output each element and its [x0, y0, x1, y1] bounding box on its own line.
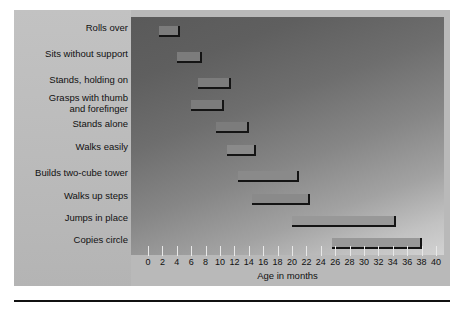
- milestone-label: Rolls over: [0, 23, 128, 34]
- milestone-bar: [216, 122, 248, 133]
- bar-track: [131, 76, 444, 98]
- milestone-bar: [252, 194, 310, 205]
- milestone-bar: [292, 216, 396, 227]
- table-row: Walks easily: [14, 143, 450, 165]
- bar-track: [131, 24, 444, 46]
- bar-track: [131, 143, 444, 165]
- milestone-bar: [198, 78, 230, 89]
- milestone-bar: [238, 171, 299, 182]
- axis-tick: [220, 246, 221, 256]
- table-row: Stands alone: [14, 120, 450, 142]
- milestone-bar: [227, 145, 256, 156]
- bar-track: [131, 214, 444, 236]
- x-axis-title: Age in months: [131, 270, 444, 281]
- axis-tick: [306, 246, 307, 256]
- axis-tick: [162, 246, 163, 256]
- milestone-label: Walks easily: [0, 142, 128, 153]
- table-row: Grasps with thumb and forefinger: [14, 98, 450, 120]
- milestone-bar: [177, 52, 202, 63]
- axis-tick: [422, 246, 423, 256]
- table-row: Rolls over: [14, 24, 450, 46]
- bottom-divider-rule: [14, 300, 450, 302]
- milestone-label: Sits without support: [0, 49, 128, 60]
- axis-tick: [350, 246, 351, 256]
- axis-tick: [292, 246, 293, 256]
- milestone-label: Copies circle: [0, 235, 128, 246]
- table-row: Sits without support: [14, 50, 450, 72]
- axis-tick: [321, 246, 322, 256]
- axis-tick: [278, 246, 279, 256]
- milestone-label: Walks up steps: [0, 191, 128, 202]
- milestone-bar: [191, 100, 223, 111]
- milestone-label: Grasps with thumb and forefinger: [0, 93, 128, 114]
- axis-tick: [177, 246, 178, 256]
- axis-tick: [364, 246, 365, 256]
- table-row: Walks up steps: [14, 192, 450, 214]
- milestone-label: Stands alone: [0, 119, 128, 130]
- axis-tick: [249, 246, 250, 256]
- milestone-bar: [159, 26, 181, 37]
- axis-tick: [148, 246, 149, 256]
- bar-track: [131, 98, 444, 120]
- chart-figure: Rolls overSits without supportStands, ho…: [14, 10, 450, 286]
- x-axis: 0246810121416182022242628303234363840 Ag…: [131, 246, 444, 286]
- milestone-label: Jumps in place: [0, 213, 128, 224]
- bar-track: [131, 120, 444, 142]
- table-row: Jumps in place: [14, 214, 450, 236]
- milestone-label: Stands, holding on: [0, 75, 128, 86]
- bar-track: [131, 50, 444, 72]
- axis-tick: [335, 246, 336, 256]
- bar-track: [131, 169, 444, 191]
- table-row: Builds two-cube tower: [14, 169, 450, 191]
- axis-tick: [191, 246, 192, 256]
- axis-tick: [378, 246, 379, 256]
- axis-tick: [436, 246, 437, 256]
- axis-tick: [206, 246, 207, 256]
- axis-tick: [393, 246, 394, 256]
- axis-tick: [234, 246, 235, 256]
- milestone-label: Builds two-cube tower: [0, 168, 128, 179]
- axis-tick: [263, 246, 264, 256]
- axis-tick: [407, 246, 408, 256]
- bar-track: [131, 192, 444, 214]
- axis-tick-label: 40: [426, 257, 446, 267]
